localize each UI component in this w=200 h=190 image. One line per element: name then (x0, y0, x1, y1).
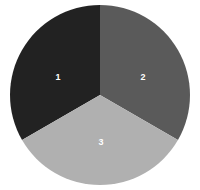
pie-chart-figure: 1 2 3 (0, 0, 200, 190)
pie-slice-label-1: 1 (55, 72, 60, 82)
pie-slices (10, 5, 190, 185)
pie-chart-canvas: 1 2 3 (0, 0, 200, 190)
pie-slice-label-3: 3 (98, 137, 103, 147)
pie-slice-label-2: 2 (140, 72, 145, 82)
